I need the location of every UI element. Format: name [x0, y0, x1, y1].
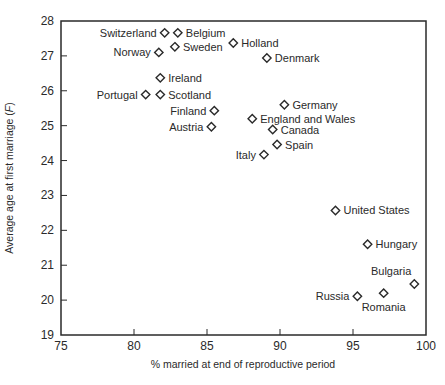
diamond-marker-icon	[363, 240, 371, 248]
data-point: Germany	[280, 99, 338, 111]
data-point: Belgium	[174, 27, 226, 39]
diamond-marker-icon	[141, 90, 149, 98]
x-tick-label: 95	[346, 339, 360, 353]
y-tick-label: 23	[41, 188, 55, 202]
diamond-marker-icon	[379, 289, 387, 297]
x-tick-label: 90	[273, 339, 287, 353]
y-axis-title: Average age at first marriage (F)	[3, 102, 15, 254]
y-tick-label: 19	[41, 328, 55, 342]
y-tick-label: 26	[41, 84, 55, 98]
point-label: United States	[343, 204, 410, 216]
x-axis-ticks: 7580859095100	[54, 329, 436, 353]
data-point: Austria	[169, 121, 215, 133]
point-label: Austria	[169, 121, 204, 133]
data-point: Russia	[316, 290, 362, 302]
data-point: Hungary	[363, 238, 417, 250]
data-point: Portugal	[97, 89, 150, 101]
data-point: Norway	[114, 46, 163, 58]
diamond-marker-icon	[280, 101, 288, 109]
plot-frame	[61, 21, 426, 335]
data-point: Bulgaria	[371, 265, 419, 288]
data-point: Italy	[236, 149, 268, 161]
data-point: Finland	[170, 105, 218, 117]
y-tick-label: 24	[41, 154, 55, 168]
point-label: Russia	[316, 290, 351, 302]
diamond-marker-icon	[156, 90, 164, 98]
point-label: Denmark	[275, 52, 320, 64]
point-label: Finland	[170, 105, 206, 117]
scatter-chart: 7580859095100 19202122232425262728 Switz…	[0, 0, 445, 385]
data-point: United States	[331, 204, 410, 216]
x-axis-title: % married at end of reproductive period	[151, 358, 336, 370]
point-label: Sweden	[183, 41, 223, 53]
point-label: Spain	[285, 139, 313, 151]
point-label: Scotland	[168, 89, 211, 101]
data-point: Scotland	[156, 89, 211, 101]
diamond-marker-icon	[171, 43, 179, 51]
x-tick-label: 85	[200, 339, 214, 353]
point-label: Hungary	[376, 238, 418, 250]
diamond-marker-icon	[263, 54, 271, 62]
diamond-marker-icon	[248, 114, 256, 122]
point-label: Norway	[114, 46, 152, 58]
data-point: Romania	[362, 289, 407, 313]
diamond-marker-icon	[210, 106, 218, 114]
diamond-marker-icon	[160, 29, 168, 37]
diamond-marker-icon	[207, 123, 215, 131]
diamond-marker-icon	[353, 292, 361, 300]
y-tick-label: 27	[41, 49, 55, 63]
data-point: Spain	[273, 139, 313, 151]
diamond-marker-icon	[260, 150, 268, 158]
data-points: SwitzerlandBelgiumNorwaySwedenHollandDen…	[97, 27, 419, 313]
y-tick-label: 25	[41, 119, 55, 133]
diamond-marker-icon	[155, 48, 163, 56]
y-tick-label: 21	[41, 258, 55, 272]
y-tick-label: 22	[41, 223, 55, 237]
diamond-marker-icon	[331, 206, 339, 214]
y-axis-ticks: 19202122232425262728	[41, 14, 67, 342]
y-tick-label: 20	[41, 293, 55, 307]
data-point: Canada	[269, 124, 321, 136]
point-label: Holland	[241, 37, 278, 49]
diamond-marker-icon	[410, 280, 418, 288]
point-label: Canada	[281, 124, 320, 136]
data-point: Denmark	[263, 52, 320, 64]
point-label: Italy	[236, 149, 257, 161]
x-tick-label: 75	[54, 339, 68, 353]
y-tick-label: 28	[41, 14, 55, 28]
diamond-marker-icon	[229, 39, 237, 47]
point-label: Switzerland	[100, 27, 157, 39]
point-label: Portugal	[97, 89, 138, 101]
diamond-marker-icon	[156, 74, 164, 82]
diamond-marker-icon	[269, 125, 277, 133]
point-label: Belgium	[186, 27, 226, 39]
point-label: Ireland	[168, 72, 202, 84]
data-point: Ireland	[156, 72, 202, 84]
diamond-marker-icon	[273, 140, 281, 148]
x-tick-label: 80	[127, 339, 141, 353]
point-label: Germany	[292, 99, 338, 111]
data-point: Holland	[229, 37, 279, 49]
data-point: Switzerland	[100, 27, 169, 39]
data-point: Sweden	[171, 41, 223, 53]
diamond-marker-icon	[174, 29, 182, 37]
x-tick-label: 100	[416, 339, 436, 353]
point-label: Romania	[362, 301, 407, 313]
point-label: Bulgaria	[371, 265, 412, 277]
